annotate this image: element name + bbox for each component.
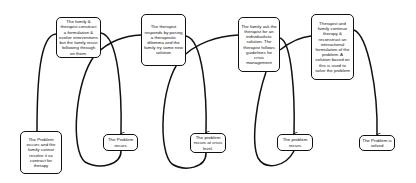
- step-text: The Problem occurs and the family cannot…: [23, 137, 59, 168]
- step-text: The therapist responds by posing a thera…: [144, 24, 183, 55]
- step-problem-recurs-1: The Problem recurs: [103, 134, 138, 151]
- step-problem-recurs-crisis: The problem recurs at crisis level.: [190, 133, 226, 153]
- step-text: The Problem is solved: [362, 138, 392, 148]
- step-interactional-formulation: Therapist and family continue therapy & …: [311, 14, 354, 80]
- step-crisis-management: The family ask the therapist for an indi…: [238, 17, 280, 72]
- step-problem-solved: The Problem is solved: [359, 135, 395, 151]
- step-text: The Problem recurs: [106, 137, 135, 147]
- step-therapeutic-dilemma: The therapist responds by posing a thera…: [141, 14, 186, 66]
- step-text: The family & therapist construct a formu…: [59, 19, 98, 55]
- step-text: The problem recurs at crisis level.: [193, 135, 223, 151]
- step-problem-occurs: The Problem occurs and the family cannot…: [20, 131, 62, 174]
- step-text: Therapist and family continue therapy & …: [314, 21, 351, 73]
- step-problem-recurs-2: The problem recurs: [277, 134, 313, 151]
- step-text: The family ask the therapist for an indi…: [241, 24, 277, 66]
- step-family-therapist-formulation: The family & therapist construct a formu…: [56, 17, 101, 58]
- step-text: The problem recurs: [280, 137, 310, 147]
